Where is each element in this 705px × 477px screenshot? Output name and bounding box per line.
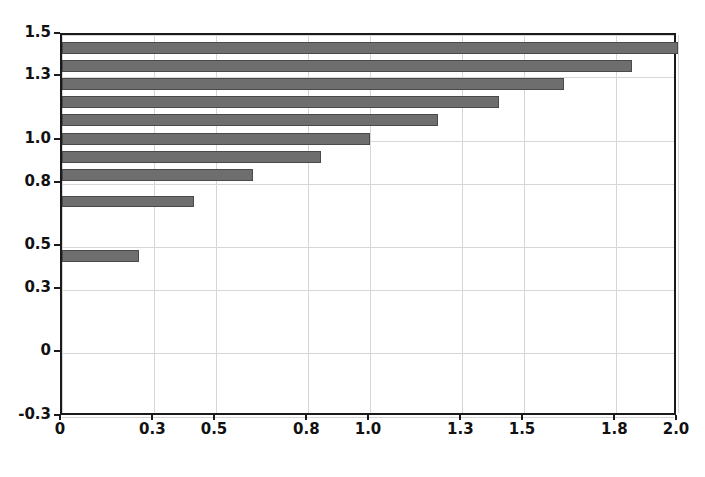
x-axis-tick-mark [305, 415, 307, 420]
x-axis-tick-label: 0.8 [293, 422, 320, 437]
plot-area [60, 33, 676, 415]
gridline-vertical [524, 35, 525, 413]
x-axis-tick-label: 0.3 [139, 422, 166, 437]
x-axis-tick-mark [521, 415, 523, 420]
y-axis-tick-label: 1.3 [24, 67, 51, 82]
y-axis-tick-label: 0.3 [24, 280, 51, 295]
y-axis-tick-label: 1.5 [24, 25, 51, 40]
gridline-vertical [216, 35, 217, 413]
gridline-vertical [462, 35, 463, 413]
bar [62, 133, 370, 145]
bar [62, 42, 678, 54]
gridline-horizontal [62, 247, 674, 248]
x-axis-tick-label: 0 [55, 422, 65, 437]
bar [62, 151, 321, 163]
bar [62, 60, 632, 72]
y-axis-tick-mark [54, 138, 60, 140]
x-axis-tick-label: 1.8 [601, 422, 628, 437]
x-axis-tick-mark [367, 415, 369, 420]
x-axis-tick-mark [459, 415, 461, 420]
x-axis-tick-label: 1.3 [447, 422, 474, 437]
x-axis-tick-mark [675, 415, 677, 420]
gridline-horizontal [62, 353, 674, 354]
gridline-vertical [678, 35, 679, 413]
gridline-horizontal [62, 290, 674, 291]
y-axis-tick-mark [54, 32, 60, 34]
bar [62, 78, 564, 90]
gridline-horizontal [62, 35, 674, 36]
bar-chart: 1.51.31.00.80.50.30-0.3 00.30.50.81.01.3… [0, 0, 705, 477]
gridline-vertical [308, 35, 309, 413]
x-axis-tick-mark [59, 415, 61, 420]
y-axis-tick-label: 0.5 [24, 237, 51, 252]
bar [62, 96, 499, 108]
bar [62, 196, 194, 208]
x-axis-tick-mark [213, 415, 215, 420]
x-axis-tick-label: 1.0 [355, 422, 382, 437]
gridline-horizontal [62, 184, 674, 185]
y-axis-tick-mark [54, 181, 60, 183]
x-axis-tick-label: 0.5 [201, 422, 228, 437]
x-axis-tick-mark [151, 415, 153, 420]
gridline-vertical [616, 35, 617, 413]
bar [62, 114, 438, 126]
x-axis-tick-mark [613, 415, 615, 420]
y-axis-tick-label: -0.3 [18, 407, 51, 422]
y-axis-tick-label: 0 [41, 343, 51, 358]
bar [62, 169, 253, 181]
y-axis-tick-mark [54, 350, 60, 352]
gridline-vertical [154, 35, 155, 413]
y-axis-tick-mark [54, 74, 60, 76]
gridline-vertical [62, 35, 63, 413]
gridline-vertical [370, 35, 371, 413]
y-axis-tick-mark [54, 287, 60, 289]
x-axis-tick-label: 2.0 [663, 422, 690, 437]
y-axis-tick-label: 1.0 [24, 131, 51, 146]
y-axis-tick-label: 0.8 [24, 174, 51, 189]
y-axis-tick-mark [54, 244, 60, 246]
x-axis-tick-label: 1.5 [509, 422, 536, 437]
bar [62, 250, 139, 262]
